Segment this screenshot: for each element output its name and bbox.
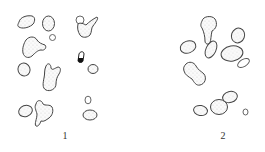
panel-label-1: 1 [55, 130, 75, 141]
panel-1-particles [16, 16, 98, 126]
micrograph-figure: 1 2 [0, 0, 265, 152]
panel-2-particles [178, 17, 250, 117]
panel-label-2: 2 [213, 130, 233, 141]
